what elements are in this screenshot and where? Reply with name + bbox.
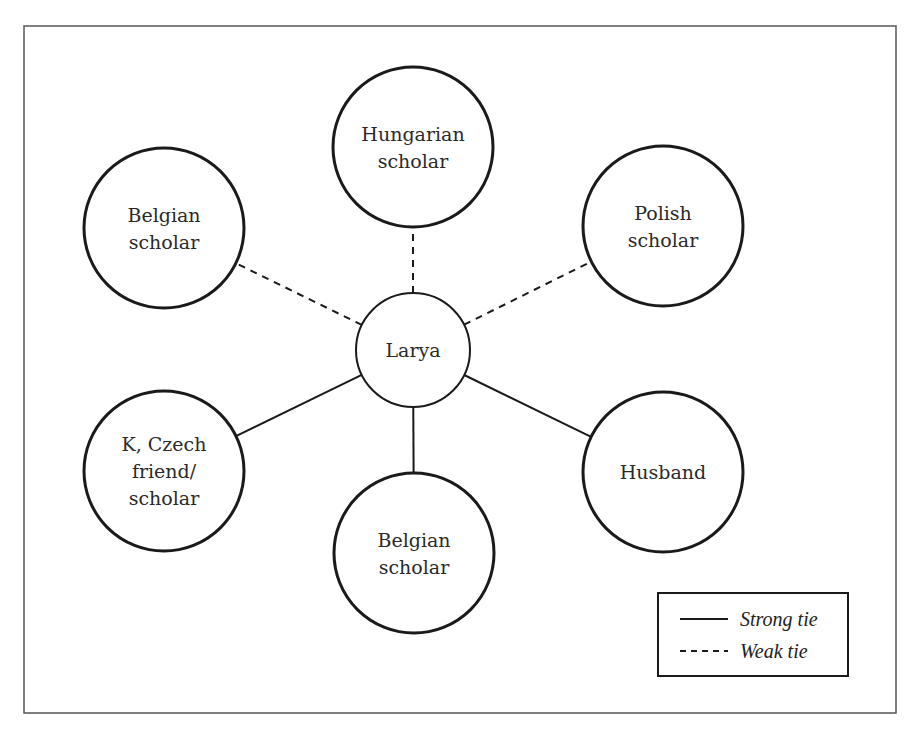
node-k-czech-friend-scholar: K, Czechfriend/scholar	[84, 391, 244, 551]
network-diagram: HungarianscholarBelgianscholarPolishscho…	[0, 0, 906, 737]
k-czech-friend-scholar-label: K, Czechfriend/scholar	[122, 433, 207, 509]
node-label-line: scholar	[129, 487, 200, 509]
husband-label: Husband	[620, 461, 706, 483]
node-label-line: Larya	[385, 339, 440, 361]
node-husband: Husband	[583, 392, 743, 552]
node-belgian-scholar-top: Belgianscholar	[84, 148, 244, 308]
node-larya-center: Larya	[356, 293, 470, 407]
legend-strong-label: Strong tie	[740, 608, 818, 631]
node-label-line: scholar	[378, 150, 449, 172]
node-label-line: Belgian	[127, 204, 200, 226]
larya-label: Larya	[385, 339, 440, 361]
node-hungarian-scholar: Hungarianscholar	[333, 67, 493, 227]
node-circle	[583, 146, 743, 306]
node-circle	[333, 67, 493, 227]
node-label-line: Hungarian	[361, 123, 464, 145]
node-circle	[334, 473, 494, 633]
node-label-line: scholar	[129, 231, 200, 253]
node-label-line: Husband	[620, 461, 706, 483]
legend-weak-label: Weak tie	[740, 640, 808, 662]
node-label-line: scholar	[628, 229, 699, 251]
node-label-line: Polish	[634, 202, 692, 224]
legend: Strong tie Weak tie	[658, 593, 848, 676]
node-label-line: friend/	[132, 460, 197, 482]
node-circle	[84, 148, 244, 308]
node-polish-scholar: Polishscholar	[583, 146, 743, 306]
node-label-line: Belgian	[377, 529, 450, 551]
node-label-line: K, Czech	[122, 433, 207, 455]
node-belgian-scholar-bottom: Belgianscholar	[334, 473, 494, 633]
legend-box	[658, 593, 848, 676]
node-label-line: scholar	[379, 556, 450, 578]
